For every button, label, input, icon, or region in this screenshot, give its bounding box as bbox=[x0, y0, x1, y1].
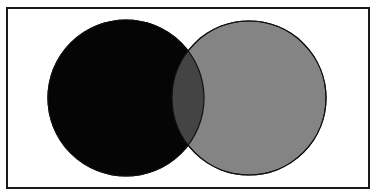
venn-diagram bbox=[0, 0, 377, 196]
